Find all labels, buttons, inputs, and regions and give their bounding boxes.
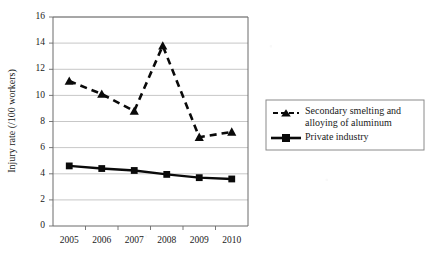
y-tick-label: 12 — [36, 63, 46, 73]
data-point-marker — [131, 167, 138, 174]
data-point-marker — [66, 163, 73, 170]
data-point-marker — [228, 176, 235, 183]
y-tick-label: 16 — [36, 11, 46, 21]
line-chart: 16 14 12 10 8 6 4 2 0 2005 2006 2007 200… — [0, 0, 430, 257]
x-tick-label: 2006 — [92, 235, 111, 245]
x-tick-label: 2007 — [125, 235, 144, 245]
y-tick-label: 2 — [40, 194, 45, 204]
legend-label-1-line1: Secondary smelting and — [305, 105, 401, 116]
y-tick-label: 14 — [36, 37, 46, 47]
y-tick-label: 10 — [36, 90, 46, 100]
chart-legend: Secondary smelting and alloying of alumi… — [266, 100, 424, 150]
y-tick-label: 0 — [40, 220, 45, 230]
x-tick-label: 2008 — [157, 235, 176, 245]
data-point-marker — [196, 174, 203, 181]
chart-figure: 16 14 12 10 8 6 4 2 0 2005 2006 2007 200… — [0, 0, 430, 257]
legend-label-1-line2: alloying of aluminum — [305, 117, 392, 128]
y-tick-label: 4 — [40, 168, 45, 178]
legend-label-2-line1: Private industry — [305, 131, 369, 142]
data-point-marker — [163, 171, 170, 178]
legend-square-icon — [282, 134, 290, 142]
x-tick-label: 2010 — [222, 235, 241, 245]
data-point-marker — [98, 165, 105, 172]
x-tick-label: 2005 — [60, 235, 79, 245]
y-tick-label: 8 — [40, 116, 45, 126]
y-tick-label: 6 — [40, 142, 45, 152]
x-tick-label: 2009 — [190, 235, 209, 245]
y-axis-title: Injury rate (/100 workers) — [6, 69, 18, 173]
